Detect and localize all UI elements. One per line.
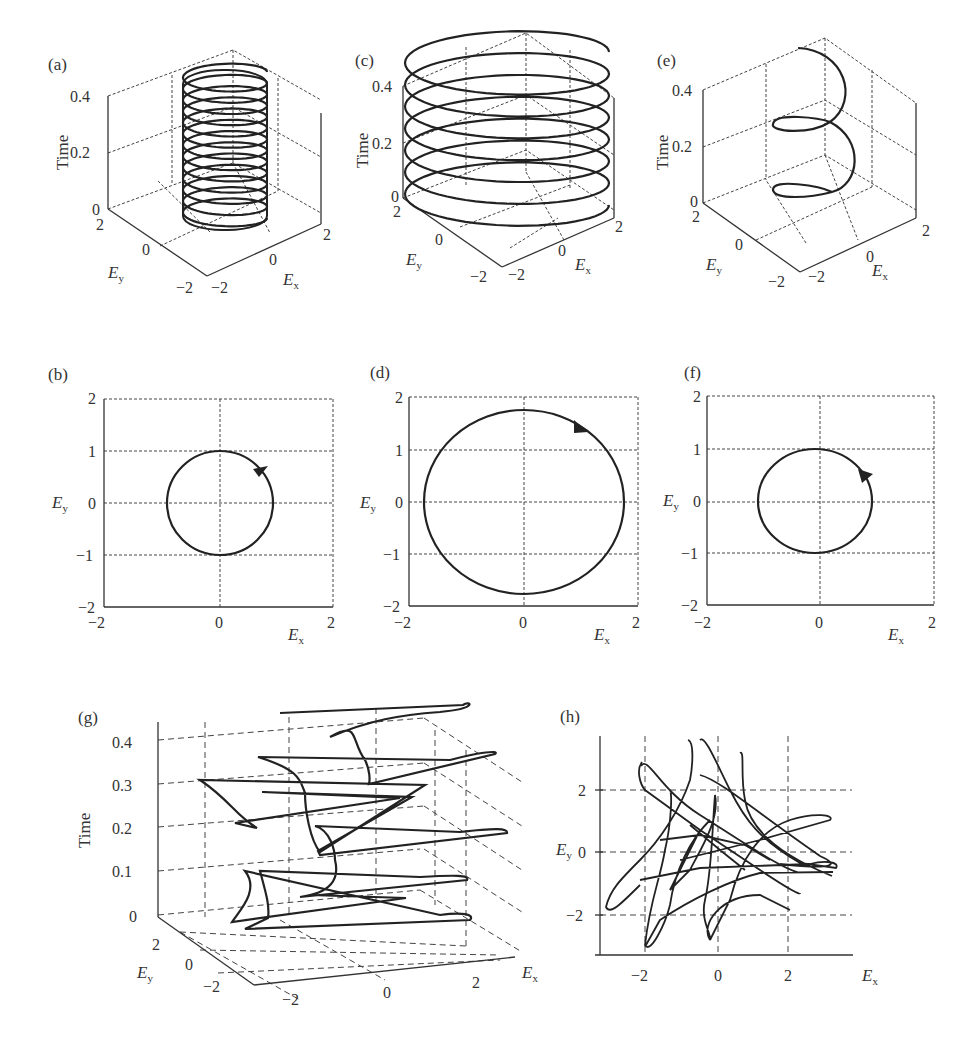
svg-text:0: 0 (735, 236, 743, 253)
svg-text:−1: −1 (76, 547, 93, 564)
svg-text:2: 2 (615, 218, 623, 235)
svg-text:Ey: Ey (662, 491, 679, 512)
svg-text:0.2: 0.2 (672, 138, 692, 155)
svg-text:2: 2 (395, 389, 403, 406)
svg-text:2: 2 (323, 226, 331, 243)
svg-text:0: 0 (435, 231, 443, 248)
svg-text:0: 0 (185, 956, 193, 973)
svg-text:Ex: Ex (861, 966, 878, 987)
svg-text:2: 2 (922, 222, 930, 239)
svg-text:−2: −2 (508, 266, 525, 283)
svg-text:0: 0 (142, 241, 150, 258)
panel-e-label: (e) (657, 51, 676, 70)
svg-text:Time: Time (653, 135, 672, 170)
svg-text:0: 0 (88, 495, 96, 512)
svg-text:0: 0 (578, 844, 586, 861)
svg-text:0.3: 0.3 (112, 777, 132, 794)
svg-text:2: 2 (693, 388, 701, 405)
svg-text:0.1: 0.1 (112, 863, 132, 880)
svg-text:−2: −2 (631, 967, 648, 984)
svg-text:1: 1 (395, 442, 403, 459)
svg-text:0.4: 0.4 (112, 734, 132, 751)
svg-text:0.2: 0.2 (372, 135, 392, 152)
svg-text:Ex: Ex (871, 261, 888, 282)
svg-text:2: 2 (692, 208, 700, 225)
svg-text:−2: −2 (88, 614, 105, 631)
svg-text:0.4: 0.4 (70, 88, 90, 105)
trajectory-g (200, 703, 507, 929)
svg-text:Ey: Ey (359, 493, 376, 514)
svg-text:Time: Time (75, 813, 94, 848)
svg-text:Time: Time (353, 133, 372, 168)
z-axis-label: Time (53, 135, 72, 170)
svg-text:2: 2 (393, 203, 401, 220)
svg-text:2: 2 (96, 216, 104, 233)
panel-b-label: (b) (48, 365, 68, 384)
svg-text:0.4: 0.4 (672, 82, 692, 99)
svg-text:0: 0 (129, 908, 137, 925)
svg-text:−2: −2 (394, 614, 411, 631)
panel-g-label: (g) (78, 708, 98, 727)
svg-text:0.2: 0.2 (70, 144, 90, 161)
svg-text:0: 0 (383, 984, 391, 1001)
direction-arrow-icon (574, 420, 588, 433)
svg-text:0: 0 (815, 614, 823, 631)
svg-text:0.4: 0.4 (372, 78, 392, 95)
panel-g: (g) 0.4 0.3 0.2 0.1 0 Time 2 (75, 703, 538, 1008)
svg-text:Ey: Ey (705, 255, 722, 276)
helix-c (405, 31, 609, 226)
svg-text:−2: −2 (470, 268, 487, 285)
panel-h-label: (h) (560, 707, 580, 726)
svg-text:Ey: Ey (555, 840, 572, 861)
svg-text:0: 0 (269, 251, 277, 268)
svg-text:−2: −2 (176, 279, 193, 296)
svg-text:−1: −1 (681, 545, 698, 562)
figure-canvas: (a) 0.4 0.2 0 Time 2 0 −2 −2 0 2 Ey Ex (0, 0, 976, 1043)
svg-text:0: 0 (519, 614, 527, 631)
svg-text:−2: −2 (768, 273, 785, 290)
panel-f: (f) 2 1 0 −1 −2 −2 0 2 Ey Ex (662, 363, 936, 646)
svg-text:0: 0 (215, 614, 223, 631)
svg-text:Ex: Ex (521, 963, 538, 984)
panel-b: (b) 2 1 0 −1 −2 −2 0 2 Ey Ex (48, 365, 335, 646)
x-axis-label: Ex (282, 270, 299, 291)
svg-text:Ex: Ex (287, 625, 304, 646)
svg-text:−2: −2 (566, 907, 583, 924)
panel-h: (h) 2 0 −2 −2 0 2 Ey Ex (555, 707, 878, 987)
svg-text:Ey: Ey (405, 250, 422, 271)
svg-text:0.2: 0.2 (112, 820, 132, 837)
svg-text:2: 2 (88, 390, 96, 407)
svg-text:Ex: Ex (887, 625, 904, 646)
svg-text:0: 0 (395, 494, 403, 511)
svg-text:−2: −2 (681, 597, 698, 614)
panel-a-label: (a) (48, 55, 67, 74)
svg-text:2: 2 (578, 782, 586, 799)
svg-text:2: 2 (632, 614, 640, 631)
svg-text:Ey: Ey (136, 963, 153, 984)
panel-d-label: (d) (370, 363, 390, 382)
svg-text:−2: −2 (282, 991, 299, 1008)
svg-text:Ex: Ex (593, 625, 610, 646)
panel-a: (a) 0.4 0.2 0 Time 2 0 −2 −2 0 2 Ey Ex (48, 50, 331, 296)
svg-text:Ey: Ey (51, 493, 68, 514)
svg-text:2: 2 (472, 974, 480, 991)
svg-text:−1: −1 (383, 546, 400, 563)
svg-text:−2: −2 (211, 279, 228, 296)
svg-text:−2: −2 (808, 268, 825, 285)
svg-text:0: 0 (714, 967, 722, 984)
panel-c-label: (c) (355, 51, 374, 70)
svg-text:0: 0 (558, 242, 566, 259)
svg-text:2: 2 (327, 614, 335, 631)
svg-text:Ex: Ex (574, 255, 591, 276)
trajectory-h (606, 739, 837, 947)
svg-text:2: 2 (928, 614, 936, 631)
svg-text:1: 1 (88, 443, 96, 460)
direction-arrow-icon (858, 469, 873, 483)
svg-text:−2: −2 (203, 978, 220, 995)
svg-text:−2: −2 (694, 614, 711, 631)
svg-text:1: 1 (693, 441, 701, 458)
helix-a (183, 64, 267, 230)
panel-d: (d) 2 1 0 −1 −2 −2 0 2 Ey Ex (359, 363, 640, 646)
svg-text:0: 0 (693, 493, 701, 510)
svg-text:2: 2 (152, 936, 160, 953)
